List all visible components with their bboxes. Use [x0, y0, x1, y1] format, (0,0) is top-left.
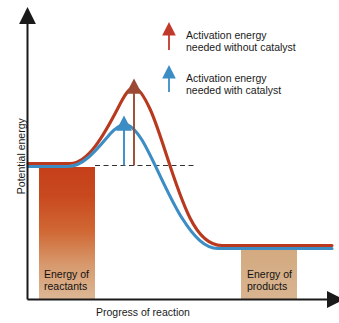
y-axis-label: Potential energy: [15, 111, 27, 201]
legend-item-catalyzed-line1: Activation energy: [186, 72, 281, 84]
reactants-box-label-line1: Energy of: [44, 268, 89, 280]
products-box-label-line1: Energy of: [247, 268, 292, 280]
energy-diagram-figure: Potential energy Progress of reaction Ac…: [0, 0, 339, 323]
legend-item-uncatalyzed-line2: needed without catalyst: [186, 41, 296, 53]
legend-item-uncatalyzed-line1: Activation energy: [186, 29, 296, 41]
legend-item-catalyzed: Activation energy needed with catalyst: [186, 72, 281, 97]
legend-item-uncatalyzed: Activation energy needed without catalys…: [186, 29, 296, 54]
x-axis-label: Progress of reaction: [96, 306, 190, 318]
reactants-box-label: Energy of reactants: [44, 268, 89, 293]
reactants-box-label-line2: reactants: [44, 280, 89, 292]
products-box-label: Energy of products: [247, 268, 292, 293]
legend-item-catalyzed-line2: needed with catalyst: [186, 84, 281, 96]
products-box-label-line2: products: [247, 280, 292, 292]
